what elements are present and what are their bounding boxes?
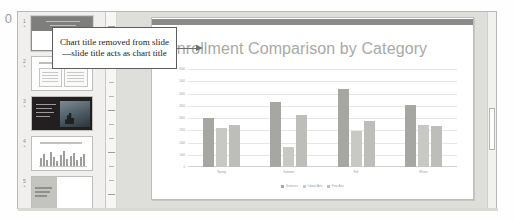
y-axis-tick: 1000 bbox=[169, 153, 185, 156]
slide-status-dots: • bbox=[18, 184, 31, 188]
slide-thumbnail-4[interactable]: 4 • bbox=[18, 136, 106, 171]
chart-bar[interactable] bbox=[405, 105, 416, 167]
slide-thumbnail-preview-4[interactable] bbox=[31, 136, 93, 171]
title-text-line bbox=[46, 21, 80, 22]
slide-status-dots: • bbox=[18, 24, 31, 28]
thumbnail-chart-icon bbox=[39, 150, 87, 166]
picture-placeholder-icon bbox=[60, 101, 90, 127]
x-axis-category-label: Summer bbox=[255, 170, 322, 174]
text-block bbox=[32, 177, 57, 210]
slide-title[interactable]: Enrollment Comparison by Category bbox=[166, 40, 463, 58]
y-axis-tick: 5000 bbox=[169, 80, 185, 83]
slide-thumbnail-5[interactable]: 5 • bbox=[18, 176, 106, 211]
slide-number-5: 5 • bbox=[18, 176, 31, 188]
chart-baseline bbox=[39, 166, 87, 167]
legend-swatch bbox=[327, 185, 330, 188]
vertical-scrollbar[interactable] bbox=[487, 12, 496, 208]
x-axis-category-label: Spring bbox=[188, 170, 255, 174]
chart-legend: SciencesLiberal ArtsFine Arts bbox=[162, 184, 463, 188]
chart-bar[interactable] bbox=[229, 125, 240, 167]
y-axis-tick: 3000 bbox=[169, 117, 185, 120]
legend-swatch bbox=[281, 185, 284, 188]
content-box-right bbox=[64, 68, 88, 87]
legend-item: Fine Arts bbox=[327, 184, 343, 188]
page-number: 0 bbox=[0, 10, 12, 28]
chart-bar-groups: SpringSummerFallWinter bbox=[188, 69, 457, 167]
chart-bar[interactable] bbox=[338, 89, 349, 167]
slide-number-1: 1 • bbox=[18, 16, 31, 28]
x-axis-category-label: Fall bbox=[323, 170, 390, 174]
slide-status-dots: • bbox=[18, 104, 31, 108]
chart-group: Fall bbox=[323, 69, 390, 167]
chart-bar[interactable] bbox=[351, 131, 362, 167]
legend-label: Fine Arts bbox=[332, 184, 344, 188]
legend-swatch bbox=[303, 185, 306, 188]
slide-accent-band bbox=[152, 19, 473, 25]
content-area bbox=[57, 177, 92, 210]
legend-label: Sciences bbox=[286, 184, 298, 188]
slide-number-4: 4 • bbox=[18, 136, 31, 148]
chart-group: Winter bbox=[390, 69, 457, 167]
chart-bar[interactable] bbox=[283, 147, 294, 167]
y-axis-tick: 3500 bbox=[169, 104, 185, 107]
chart-group: Spring bbox=[188, 69, 255, 167]
annotation-text: Chart title removed from slide—slide tit… bbox=[53, 37, 176, 60]
slide-thumbnail-preview-5[interactable] bbox=[31, 176, 93, 211]
slide-status-dots: • bbox=[18, 64, 31, 68]
y-axis-tick: 2000 bbox=[169, 141, 185, 144]
chart-object[interactable]: 6000 5000 4000 3500 3000 2500 2000 1000 … bbox=[162, 65, 463, 193]
legend-item: Sciences bbox=[281, 184, 298, 188]
slide-thumbnail-3[interactable]: 3 • bbox=[18, 96, 106, 131]
subtitle-text-line bbox=[50, 25, 76, 26]
chart-group: Summer bbox=[255, 69, 322, 167]
title-text-line bbox=[40, 142, 82, 144]
slide-number-2: 2 • bbox=[18, 56, 31, 68]
chart-plot-area: 6000 5000 4000 3500 3000 2500 2000 1000 … bbox=[188, 69, 457, 167]
y-axis-tick: 4000 bbox=[169, 92, 185, 95]
chart-bar[interactable] bbox=[431, 126, 442, 167]
chart-bar[interactable] bbox=[364, 121, 375, 167]
chart-bar[interactable] bbox=[203, 118, 214, 167]
arrow-right-icon bbox=[177, 45, 205, 51]
content-box-left bbox=[39, 68, 62, 87]
y-axis-tick: 0 bbox=[169, 166, 185, 169]
chart-bar[interactable] bbox=[296, 115, 307, 167]
screenshot-page: 0 1 • 2 • bbox=[0, 0, 514, 221]
legend-label: Liberal Arts bbox=[307, 184, 322, 188]
chart-bar[interactable] bbox=[418, 125, 429, 167]
slide-number-3: 3 • bbox=[18, 96, 31, 108]
slide-status-dots: • bbox=[18, 144, 31, 148]
slide-thumbnail-preview-3[interactable] bbox=[31, 96, 93, 131]
x-axis-category-label: Winter bbox=[390, 170, 457, 174]
legend-item: Liberal Arts bbox=[303, 184, 323, 188]
chart-bar[interactable] bbox=[270, 102, 281, 167]
annotation-callout: Chart title removed from slide—slide tit… bbox=[52, 27, 177, 69]
scrollbar-thumb[interactable] bbox=[489, 108, 495, 150]
chart-bar[interactable] bbox=[216, 128, 227, 167]
y-axis-tick: 2500 bbox=[169, 129, 185, 132]
